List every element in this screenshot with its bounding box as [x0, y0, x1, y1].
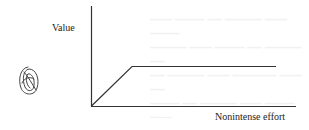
diagram: ▁▁▁ ▁▁▁▁ ▁▁ ▁▁▁▁▁ ▁▁▁ ▁▁▁▁ ▁▁▁▁▁ ▁▁▁ ▁▁▁… — [0, 0, 309, 130]
x-axis-label: Nonintense effort — [215, 111, 285, 122]
value-curve — [92, 67, 277, 107]
spiral-scribble-icon — [20, 67, 38, 94]
y-axis-label: Value — [52, 22, 75, 33]
